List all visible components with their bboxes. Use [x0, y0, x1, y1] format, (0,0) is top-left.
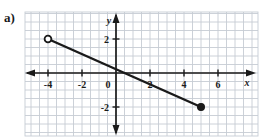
x-tick-label: 6 — [216, 79, 221, 90]
x-tick-label: 0 — [106, 79, 111, 90]
coordinate-plot: -4-20246 2-2 x y — [0, 0, 262, 138]
open-circle-endpoint — [45, 36, 52, 43]
x-tick-label: 4 — [182, 79, 187, 90]
graph-figure: a) -4-20246 2-2 x y — [0, 0, 262, 138]
y-axis-label: y — [106, 15, 112, 26]
filled-circle-endpoint — [198, 104, 205, 111]
y-tick-label: -2 — [101, 102, 109, 113]
x-axis-label: x — [244, 77, 250, 88]
y-tick-label: 2 — [104, 34, 109, 45]
x-tick-label: -4 — [44, 79, 52, 90]
x-tick-label: -2 — [78, 79, 86, 90]
grid-lines — [25, 12, 258, 136]
